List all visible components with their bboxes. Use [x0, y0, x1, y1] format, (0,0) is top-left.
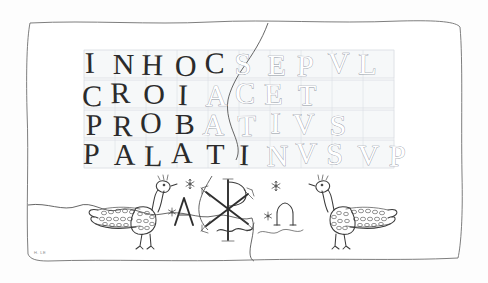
alpha-icon — [175, 198, 193, 225]
rosette-icon-3 — [264, 212, 272, 221]
drawing-canvas: INHOCSEPVLCROIACETPROBATIVSPALATINVSVP — [0, 0, 488, 283]
peacock-left-tail-stipple — [99, 209, 134, 226]
peacock-left — [89, 175, 177, 249]
peacock-left-body-stipple — [137, 211, 155, 229]
rosette-icon-4 — [168, 208, 176, 217]
chi-rho-icon — [201, 179, 254, 241]
rosette-icon-1 — [186, 179, 195, 189]
artist-signature: H. LE — [34, 250, 46, 255]
omega-icon — [274, 203, 296, 225]
peacock-right-body-stipple — [332, 211, 350, 229]
decoration-layer: H. LE — [0, 0, 488, 283]
peacock-right — [309, 175, 397, 249]
peacock-right-tail-stipple — [351, 209, 386, 226]
rosette-icon-2 — [272, 181, 281, 191]
wave-mark-right — [258, 229, 303, 233]
